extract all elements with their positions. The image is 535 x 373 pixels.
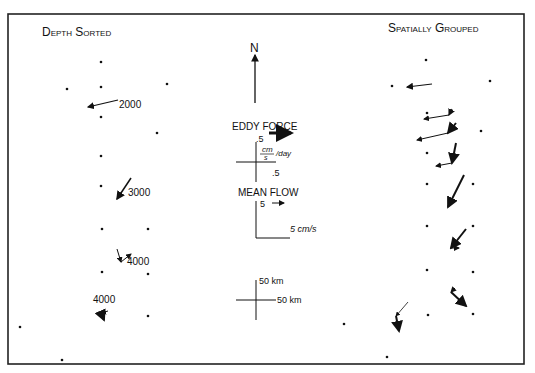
depth-label: 3000 [128, 187, 151, 198]
station-dot [426, 269, 429, 272]
eddy-force-title: EDDY FORCE [232, 121, 298, 132]
station-dot [426, 183, 429, 186]
station-dot [386, 356, 389, 359]
station-dot [427, 314, 430, 317]
distance-scale-y: 50 km [259, 276, 284, 286]
station-dot [480, 130, 483, 133]
station-dot [100, 86, 103, 89]
right-panel-title: Spatially Grouped [388, 21, 479, 35]
eddy-scale-x: .5 [272, 168, 280, 178]
station-dot [472, 183, 475, 186]
figure-canvas: Depth Sorted Spatially Grouped N EDDY FO… [0, 0, 535, 373]
station-dot [100, 155, 103, 158]
left-panel-title: Depth Sorted [42, 25, 111, 39]
mean-flow-scale-x: 5 cm/s [290, 224, 317, 234]
station-dot [391, 85, 394, 88]
station-dot [426, 152, 429, 155]
station-dot [472, 313, 475, 316]
mean-flow-title: MEAN FLOW [238, 187, 299, 198]
station-dot [100, 116, 103, 119]
eddy-units-suffix: /day [275, 149, 292, 158]
station-dot [156, 132, 159, 135]
depth-label: 2000 [119, 99, 142, 110]
station-dot [147, 273, 150, 276]
station-dot [472, 271, 475, 274]
distance-scale-x: 50 km [277, 295, 302, 305]
station-dot [100, 61, 103, 64]
station-dot [426, 225, 429, 228]
station-dot [61, 359, 64, 362]
station-dot [166, 83, 169, 86]
depth-label: 4000 [93, 294, 116, 305]
station-dot [147, 315, 150, 318]
station-dot [472, 225, 475, 228]
depth-label: 4000 [127, 256, 150, 267]
eddy-scale-y: .5 [256, 134, 264, 144]
station-dot [101, 228, 104, 231]
station-dot [489, 80, 492, 83]
station-dot [19, 326, 22, 329]
station-dot [147, 228, 150, 231]
eddy-units-den: s [264, 154, 268, 161]
station-dot [425, 59, 428, 62]
mean-flow-scale-y: 5 [260, 199, 265, 209]
station-dot [100, 185, 103, 188]
north-label: N [250, 41, 259, 55]
eddy-units-num: cm [262, 145, 273, 154]
station-dot [426, 112, 429, 115]
station-dot [66, 88, 69, 91]
station-dot [101, 271, 104, 274]
station-dot [343, 323, 346, 326]
